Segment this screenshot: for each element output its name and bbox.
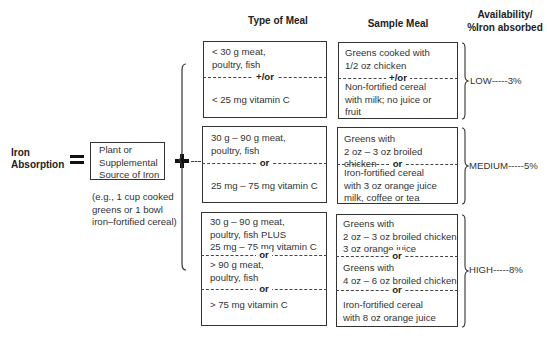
sample-low-s2-line1: Non-fortified cereal [345, 81, 431, 94]
type-low-divider: +/or [253, 71, 277, 82]
sample-low-s2-line3: fruit [345, 106, 431, 119]
plant-source-example: (e.g., 1 cup cooked greens or 1 bowl iro… [92, 191, 177, 229]
sample-high-s3-line2: with 8 oz orange juice [343, 312, 436, 325]
right-brace-high-icon [461, 214, 469, 328]
sample-medium-s2-line2: with 3 oz orange juice [344, 180, 437, 193]
sample-high-s3-line1: Iron-fortified cereal [343, 299, 436, 312]
plant-source-line2: Supplemental [99, 157, 159, 170]
sample-box-medium: Greens with 2 oz – 3 oz broiled chicken … [337, 127, 458, 204]
type-high-s1-line2: poultry, fish PLUS [210, 229, 317, 242]
type-box-low: < 30 g meat, poultry, fish +/or < 25 mg … [203, 41, 327, 118]
sample-box-low: Greens cooked with 1/2 oz chicken +/or N… [338, 42, 458, 119]
type-box-medium: 30 g – 90 g meat, poultry, fish or 25 mg… [202, 126, 327, 203]
left-brace-icon [178, 62, 188, 272]
header-availability-line2: %Iron absorbed [463, 21, 547, 34]
type-low-s1-line2: poultry, fish [212, 59, 266, 72]
right-brace-medium-icon [461, 127, 469, 205]
type-high-s3-line1: > 75 mg vitamin C [210, 299, 288, 312]
header-type-of-meal: Type of Meal [228, 15, 328, 26]
sample-low-s1-line2: 1/2 oz chicken [345, 60, 430, 73]
sample-high-divider-1: or [389, 250, 405, 261]
type-medium-s1-line1: 30 g – 90 g meat, [211, 132, 286, 145]
type-high-s2-line1: > 90 g meat, [210, 259, 264, 272]
type-medium-divider: or [257, 157, 273, 168]
type-high-divider-2: or [256, 283, 272, 294]
sample-high-s1-line1: Greens with [343, 218, 457, 231]
sample-box-high: Greens with 2 oz – 3 oz broiled chicken … [336, 214, 458, 327]
example-line3: iron–fortified cereal) [92, 216, 177, 229]
iron-absorption-label-line1: Iron [11, 147, 64, 159]
type-high-s1-line1: 30 g – 90 g meat, [210, 216, 317, 229]
header-availability-line1: Availability/ [463, 8, 547, 21]
example-line2: greens or 1 bowl [92, 204, 177, 217]
type-low-s2-line1: < 25 mg vitamin C [212, 94, 290, 107]
type-box-high: 30 g – 90 g meat, poultry, fish PLUS 25 … [201, 212, 327, 326]
iron-absorption-label-line2: Absorption [11, 159, 64, 171]
level-high: HIGH-----8% [469, 264, 523, 275]
sample-medium-s1-line1: Greens with [344, 133, 457, 146]
type-low-s1-line1: < 30 g meat, [212, 46, 266, 59]
sample-high-s2-line1: Greens with [343, 262, 457, 275]
plant-source-line1: Plant or [99, 144, 159, 157]
sample-low-s1-line1: Greens cooked with [345, 47, 430, 60]
sample-medium-s2-line3: milk, coffee or tea [344, 192, 437, 205]
sample-medium-s2-line1: Iron-fortified cereal [344, 167, 437, 180]
level-low: LOW-----3% [470, 75, 522, 86]
sample-low-s2-line2: with milk; no juice or [345, 94, 431, 107]
right-brace-low-icon [461, 42, 469, 120]
level-medium: MEDIUM-----5% [469, 160, 538, 171]
type-medium-s1-line2: poultry, fish [211, 145, 286, 158]
header-sample-meal: Sample Meal [348, 18, 448, 29]
iron-absorption-label: Iron Absorption [11, 147, 64, 171]
example-line1: (e.g., 1 cup cooked [92, 191, 177, 204]
plus-connector [191, 161, 201, 162]
header-availability: Availability/ %Iron absorbed [463, 8, 547, 34]
equals-sign [70, 155, 84, 165]
plant-source-line3: Source of Iron [99, 169, 159, 182]
type-medium-s2-line1: 25 mg – 75 mg vitamin C [211, 180, 318, 193]
plant-source-box: Plant or Supplemental Source of Iron [90, 142, 165, 180]
sample-high-s1-line2: 2 oz – 3 oz broiled chicken [343, 231, 457, 244]
sample-high-divider-2: or [389, 284, 405, 295]
